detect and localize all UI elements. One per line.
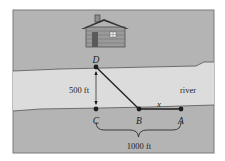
- label-D: D: [92, 55, 100, 65]
- label-river: river: [180, 85, 196, 95]
- diagram: D C B A x 500 ft river 1000 ft: [0, 0, 225, 161]
- label-500ft: 500 ft: [69, 85, 90, 95]
- point-A: [179, 107, 184, 112]
- label-A: A: [177, 116, 184, 126]
- label-B: B: [136, 116, 142, 126]
- label-C: C: [93, 116, 100, 126]
- point-C: [94, 107, 99, 112]
- point-D: [94, 65, 99, 70]
- point-B: [137, 107, 142, 112]
- label-1000ft: 1000 ft: [127, 141, 152, 151]
- label-x: x: [156, 99, 161, 109]
